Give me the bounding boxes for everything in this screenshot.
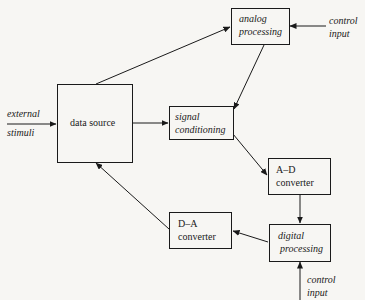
da-converter-label-2: converter	[178, 231, 216, 243]
signal-conditioning-label-1: signal	[175, 111, 199, 123]
digital-processing-block: digital processing	[269, 224, 331, 262]
digital-processing-label-2: processing	[280, 243, 323, 255]
arrow-da-to-data-source	[96, 163, 169, 229]
da-converter-label-1: D–A	[178, 218, 197, 230]
analog-processing-label-2: processing	[239, 26, 282, 38]
arrow-data-source-to-analog-processing	[96, 27, 230, 84]
ad-converter-label-1: A–D	[276, 164, 295, 176]
control-input-digital-label: control input	[307, 273, 336, 299]
data-source-block: data source	[57, 84, 133, 163]
signal-conditioning-label-2: conditioning	[175, 124, 226, 136]
da-converter-block: D–A converter	[169, 212, 232, 249]
external-stimuli-label: external stimuli	[7, 107, 40, 139]
arrow-digital-to-da	[233, 231, 268, 242]
data-source-label: data source	[70, 117, 115, 129]
arrow-analog-to-signal-conditioning	[234, 45, 264, 109]
control-input-analog-label: control input	[329, 14, 358, 40]
arrow-signal-conditioning-to-ad	[233, 134, 267, 175]
signal-conditioning-block: signal conditioning	[169, 106, 234, 140]
analog-processing-block: analog processing	[231, 8, 290, 45]
digital-processing-label-1: digital	[278, 230, 304, 242]
ad-converter-block: A–D converter	[268, 158, 331, 195]
ad-converter-label-2: converter	[276, 177, 314, 189]
analog-processing-label-1: analog	[239, 13, 267, 25]
